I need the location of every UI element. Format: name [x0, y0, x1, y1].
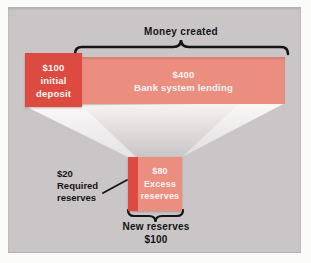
- initial-deposit-box: $100 initial deposit: [25, 53, 82, 107]
- new-reserves-caption: New reserves $100: [106, 221, 206, 246]
- deposit-label: initial deposit: [25, 74, 82, 100]
- new-reserves-box: $80 Excess reserves: [128, 157, 182, 211]
- required-reserves-label: $20 Required reserves: [57, 168, 111, 204]
- excess-label: Excess reserves: [138, 178, 182, 203]
- excess-amount: $80: [152, 165, 168, 178]
- lending-label: Bank system lending: [134, 81, 233, 94]
- money-created-label: Money created: [111, 26, 251, 37]
- money-creation-figure: Money created $100 initial deposit $400 …: [0, 0, 311, 263]
- deposit-amount: $100: [43, 61, 65, 74]
- new-reserves-amount: $100: [106, 234, 206, 247]
- bank-lending-box: $400 Bank system lending: [82, 57, 285, 104]
- money-created-brace: [75, 40, 288, 54]
- lending-amount: $400: [173, 68, 195, 81]
- required-reserves-strip: [128, 157, 138, 211]
- excess-reserves-segment: $80 Excess reserves: [138, 157, 182, 211]
- new-reserves-label: New reserves: [106, 221, 206, 234]
- required-label-text: Required reserves: [57, 180, 111, 204]
- required-amount: $20: [57, 168, 111, 180]
